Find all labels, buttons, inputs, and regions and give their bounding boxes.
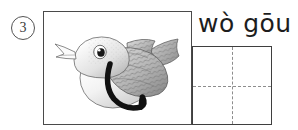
- bird-beak: [55, 44, 76, 59]
- bird-eye: [94, 45, 107, 59]
- pinyin-label: wò gōu: [198, 6, 298, 42]
- bird-illustration-icon: [52, 24, 186, 116]
- exercise-number-label: 3: [20, 21, 27, 35]
- writing-grid-cell[interactable]: [192, 46, 272, 125]
- grid-horizontal-guide: [193, 86, 271, 87]
- picture-frame: [43, 11, 192, 125]
- worksheet-page: 3: [0, 0, 298, 130]
- exercise-number-badge: 3: [11, 16, 35, 40]
